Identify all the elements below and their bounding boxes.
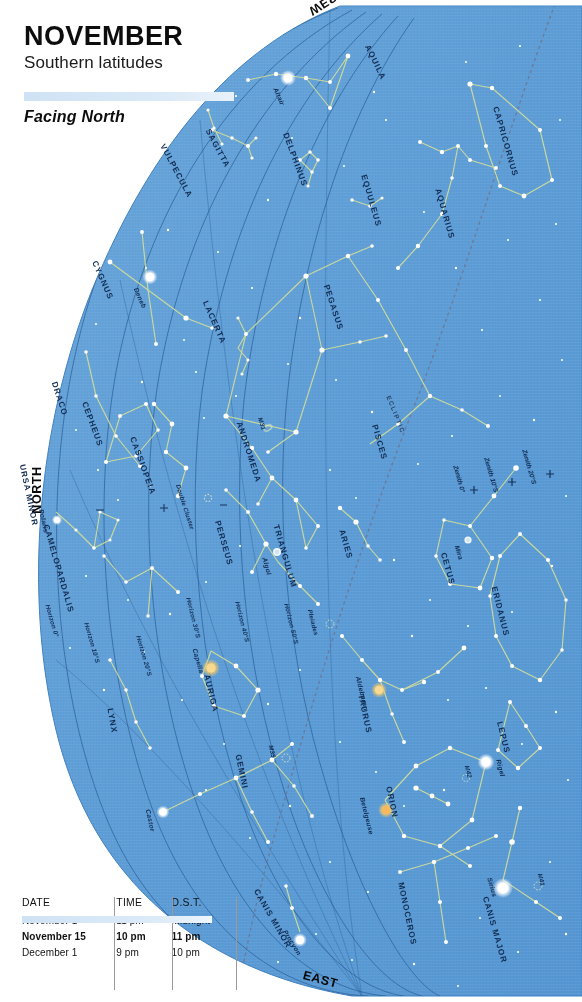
table-divider-3 bbox=[236, 897, 237, 990]
facing-direction-label: Facing North bbox=[24, 108, 125, 126]
cell-time: 9 pm bbox=[108, 944, 163, 960]
table-divider-band bbox=[22, 916, 212, 923]
table-header-row: DATE TIME D.S.T. bbox=[22, 897, 232, 912]
header-divider-band bbox=[24, 92, 234, 101]
date-time-table: DATE TIME D.S.T. November 111 pmMidnight… bbox=[22, 897, 232, 960]
page-subtitle: Southern latitudes bbox=[24, 53, 324, 73]
cell-time: 10 pm bbox=[108, 928, 163, 944]
sky-svg bbox=[0, 0, 582, 1002]
cell-date: November 15 bbox=[22, 928, 108, 944]
table-divider-2 bbox=[172, 897, 173, 990]
table-divider-1 bbox=[114, 897, 115, 990]
page-title: NOVEMBER bbox=[24, 22, 324, 50]
col-header-time: TIME bbox=[108, 897, 163, 912]
cell-dst: 10 pm bbox=[164, 944, 232, 960]
cell-dst: 11 pm bbox=[164, 928, 232, 944]
col-header-date: DATE bbox=[22, 897, 108, 912]
header: NOVEMBER Southern latitudes bbox=[24, 22, 324, 73]
cell-date: December 1 bbox=[22, 944, 108, 960]
table-row: December 19 pm10 pm bbox=[22, 944, 232, 960]
star-chart-page: NOVEMBER Southern latitudes Facing North… bbox=[0, 0, 582, 1002]
col-header-dst: D.S.T. bbox=[164, 897, 232, 912]
sky-dome bbox=[0, 0, 582, 1002]
table-row: November 1510 pm11 pm bbox=[22, 928, 232, 944]
